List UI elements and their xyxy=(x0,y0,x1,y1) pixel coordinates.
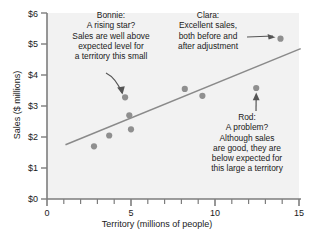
y-tick-label: $1 xyxy=(28,163,38,173)
x-tick-label: 10 xyxy=(210,208,220,218)
data-point-rod[interactable] xyxy=(253,85,259,91)
data-point-bonnie[interactable] xyxy=(122,94,128,100)
data-point[interactable] xyxy=(128,126,134,132)
y-tick-label: $6 xyxy=(28,9,38,19)
data-point[interactable] xyxy=(126,112,132,118)
data-point-clara[interactable] xyxy=(277,36,283,42)
y-tick-label: $3 xyxy=(28,101,38,111)
x-axis-tick-labels: 0 5 10 15 xyxy=(44,208,304,218)
x-tick-label: 0 xyxy=(44,208,49,218)
annotation-rod: Rod: A problem? Although sales are good,… xyxy=(182,112,312,174)
y-tick-label: $2 xyxy=(28,132,38,142)
y-tick-label: $4 xyxy=(28,70,38,80)
x-tick-label: 15 xyxy=(294,208,304,218)
y-axis-title: Sales ($ millions) xyxy=(12,40,22,170)
y-axis-tick-labels: $0 $1 $2 $3 $4 $5 $6 xyxy=(28,9,38,204)
x-axis-major-ticks xyxy=(47,199,299,206)
data-point[interactable] xyxy=(91,143,97,149)
y-tick-label: $5 xyxy=(28,39,38,49)
x-tick-label: 5 xyxy=(128,208,133,218)
y-tick-label: $0 xyxy=(28,194,38,204)
scatter-chart: $0 $1 $2 $3 $4 $5 $6 xyxy=(0,0,314,240)
y-axis-ticks xyxy=(41,13,47,199)
data-point[interactable] xyxy=(182,86,188,92)
annotation-bonnie: Bonnie: A rising star? Sales are well ab… xyxy=(52,10,170,61)
data-point[interactable] xyxy=(199,93,205,99)
data-point[interactable] xyxy=(106,132,112,138)
annotation-clara: Clara: Excellent sales, both before and … xyxy=(160,10,256,51)
x-axis-title: Territory (millions of people) xyxy=(0,219,314,229)
